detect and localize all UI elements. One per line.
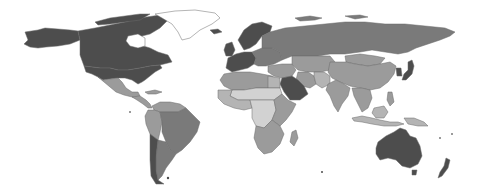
island-marker <box>451 133 453 135</box>
map-canvas <box>0 0 479 191</box>
region-korea[interactable] <box>396 68 402 76</box>
region-tasmania[interactable] <box>412 170 417 175</box>
world-choropleth-map <box>0 0 479 191</box>
island-marker <box>321 171 323 173</box>
region-egypt[interactable] <box>268 76 280 88</box>
island-falklands <box>167 177 169 179</box>
region-sahel[interactable] <box>230 88 282 100</box>
island-marker <box>439 137 441 139</box>
island-marker <box>129 111 131 113</box>
